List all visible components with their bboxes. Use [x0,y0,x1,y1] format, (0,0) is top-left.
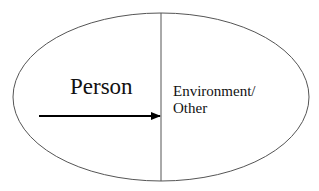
person-environment-diagram: Person Environment/ Other [0,0,319,191]
environment-label-line2: Other [173,100,283,117]
person-label: Person [70,74,133,100]
environment-label: Environment/ Other [173,83,283,117]
environment-label-line1: Environment/ [173,83,283,100]
